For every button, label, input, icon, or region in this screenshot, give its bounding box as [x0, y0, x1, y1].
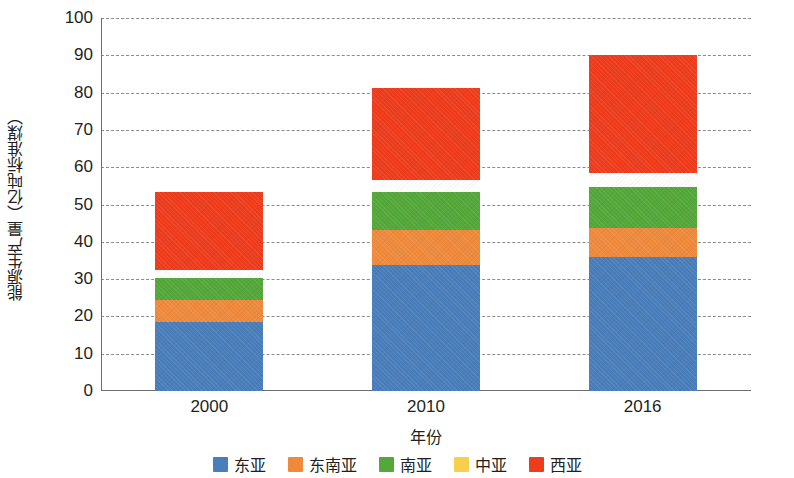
y-axis-tick-label: 40: [33, 232, 93, 252]
legend-swatch-icon: [379, 457, 394, 472]
bar-segment[interactable]: [155, 192, 263, 270]
legend-item[interactable]: 东亚: [213, 452, 266, 476]
x-axis-tick-label: 2016: [578, 397, 708, 417]
x-axis-tick-label: 2010: [361, 397, 491, 417]
bar-segment[interactable]: [372, 265, 480, 391]
legend-swatch-icon: [288, 457, 303, 472]
x-axis-title: 年份: [101, 424, 751, 448]
bar-segment[interactable]: [155, 270, 263, 277]
bar-segment[interactable]: [589, 187, 697, 228]
y-axis-tick-label: 50: [33, 195, 93, 215]
legend-item[interactable]: 西亚: [529, 452, 582, 476]
y-axis-tick-label: 60: [33, 157, 93, 177]
y-axis-tick-label: 100: [33, 8, 93, 28]
y-axis-tick-label: 80: [33, 83, 93, 103]
legend-swatch-icon: [454, 457, 469, 472]
legend-swatch-icon: [529, 457, 544, 472]
legend-label: 西亚: [550, 452, 582, 476]
legend-item[interactable]: 南亚: [379, 452, 432, 476]
x-axis-tick-labels: 200020102016: [101, 393, 751, 419]
plot-area: [101, 18, 751, 391]
bar-group[interactable]: [589, 55, 697, 391]
legend-label: 南亚: [400, 452, 432, 476]
legend-item[interactable]: 东南亚: [288, 452, 357, 476]
bar-segment[interactable]: [372, 88, 480, 180]
stacked-bar-chart: 能源生产量（亿吨标准煤） 0102030405060708090100 2000…: [0, 0, 794, 478]
y-axis-tick-label: 90: [33, 45, 93, 65]
y-axis-title: 能源生产量（亿吨标准煤）: [4, 18, 30, 392]
legend-label: 中亚: [475, 452, 507, 476]
legend-item[interactable]: 中亚: [454, 452, 507, 476]
bar-segment[interactable]: [155, 300, 263, 322]
y-axis-tick-label: 70: [33, 120, 93, 140]
bar-segment[interactable]: [372, 230, 480, 265]
bar-group[interactable]: [372, 88, 480, 391]
y-axis-tick-labels: 0102030405060708090100: [29, 18, 93, 391]
bar-segment[interactable]: [589, 55, 697, 172]
legend-label: 东亚: [234, 452, 266, 476]
bar-segment[interactable]: [155, 322, 263, 391]
y-axis-tick-label: 20: [33, 306, 93, 326]
bar-segment[interactable]: [589, 228, 697, 258]
chart-legend: 东亚东南亚南亚中亚西亚: [0, 452, 794, 476]
y-axis-tick-label: 0: [33, 381, 93, 401]
bar-segment[interactable]: [372, 180, 480, 192]
legend-label: 东南亚: [309, 452, 357, 476]
bar-segment[interactable]: [589, 173, 697, 187]
y-axis-tick-label: 30: [33, 269, 93, 289]
bar-segment[interactable]: [155, 278, 263, 300]
bars-layer: [101, 18, 751, 391]
bar-segment[interactable]: [589, 257, 697, 391]
bar-segment[interactable]: [372, 192, 480, 229]
legend-swatch-icon: [213, 457, 228, 472]
x-axis-tick-label: 2000: [144, 397, 274, 417]
bar-group[interactable]: [155, 192, 263, 391]
y-axis-tick-label: 10: [33, 344, 93, 364]
